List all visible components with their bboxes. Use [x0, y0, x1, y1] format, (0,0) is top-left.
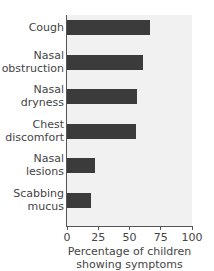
y-axis — [66, 15, 67, 227]
category-label: Chest discomfort — [5, 118, 64, 144]
x-tick — [192, 226, 193, 230]
category-label: Scabbing mucus — [13, 187, 64, 213]
x-tick — [129, 226, 130, 230]
x-tick-label: 100 — [182, 231, 203, 244]
bar — [67, 193, 91, 208]
x-axis-title-line-1: Percentage of children — [67, 245, 192, 258]
x-axis-title-line-2: showing symptoms — [67, 258, 192, 271]
bar — [67, 55, 143, 70]
bar — [67, 158, 95, 173]
category-label: Nasal dryness — [21, 83, 64, 109]
category-label: Cough — [29, 21, 64, 34]
x-tick — [98, 226, 99, 230]
x-tick-label: 75 — [154, 231, 168, 244]
x-tick-label: 25 — [91, 231, 105, 244]
bar — [67, 20, 150, 35]
x-tick — [160, 226, 161, 230]
category-label: Nasal obstruction — [2, 49, 64, 75]
x-tick-label: 0 — [64, 231, 71, 244]
x-tick — [67, 226, 68, 230]
bar — [67, 124, 136, 139]
x-tick-label: 50 — [123, 231, 137, 244]
category-label: Nasal lesions — [26, 152, 64, 178]
x-axis-title: Percentage of children showing symptoms — [67, 245, 192, 271]
bar — [67, 89, 137, 104]
